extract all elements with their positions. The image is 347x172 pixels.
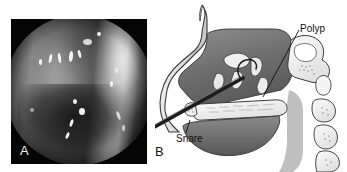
endoscope-vignette (11, 19, 147, 164)
panel-letter-a: A (20, 144, 29, 157)
panel-a-endoscopic-photo (11, 19, 147, 164)
panel-letter-b: B (155, 145, 164, 158)
cervical-vertebrae (312, 99, 339, 172)
endoscope-field-of-view (11, 19, 147, 164)
annotation-label-snare: Snare (176, 134, 203, 144)
figure-container: A (0, 0, 347, 172)
annotation-label-polyp: Polyp (300, 24, 325, 34)
sphenoid-sinus-and-skull-base (288, 36, 331, 96)
